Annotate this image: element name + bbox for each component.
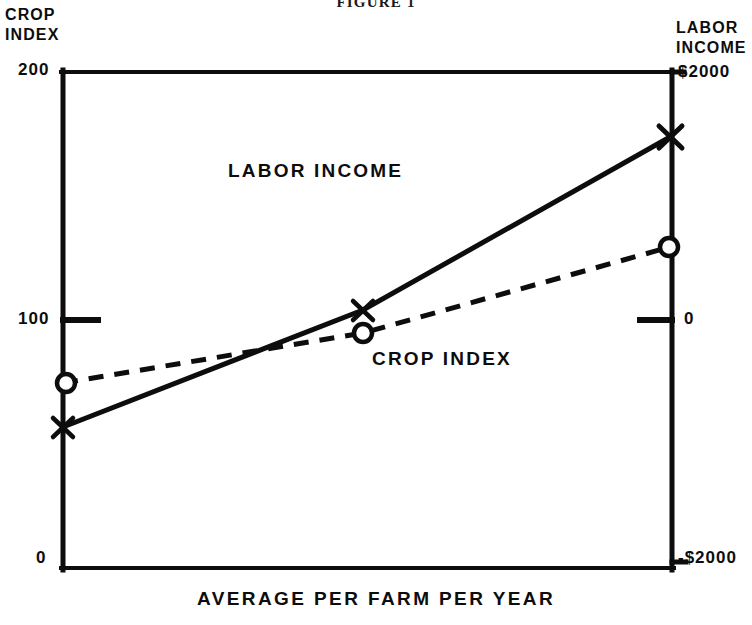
series-marker-crop-index-1 [354,324,372,342]
series-marker-crop-index-0 [57,374,75,392]
plot-area-svg [0,0,752,625]
series-line-labor-income [63,137,670,427]
figure-canvas: FIGURE 1 CROP INDEX LABOR INCOME 200 100… [0,0,752,625]
y2-axis-tick-label-2000: $2000 [678,62,730,82]
series-marker-crop-index-2 [660,238,678,256]
